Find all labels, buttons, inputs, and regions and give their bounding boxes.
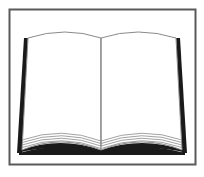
right-page: [101, 32, 182, 150]
open-book-icon: [0, 0, 204, 177]
left-page: [22, 32, 101, 150]
book-illustration: [0, 0, 204, 177]
